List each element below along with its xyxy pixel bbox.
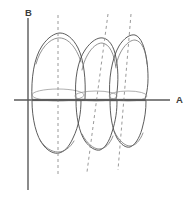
tooth-2-root-outline <box>76 101 117 150</box>
teeth-group <box>32 33 148 153</box>
tooth-1-root-outline <box>32 101 81 153</box>
reference-axes-group <box>14 18 170 190</box>
axis-label-b: B <box>25 7 32 18</box>
axis-label-a: A <box>176 94 183 105</box>
long-axis-lines-group <box>58 14 131 175</box>
tooth-axis-diagram: B A <box>0 0 193 199</box>
axis-labels-group: B A <box>25 7 183 105</box>
tooth-2 <box>75 38 118 150</box>
tooth-3-root-outline <box>110 101 146 147</box>
diagram-canvas: B A <box>0 0 193 199</box>
tooth-1 <box>32 33 85 153</box>
tooth-2-long-axis-dashed <box>87 14 108 172</box>
